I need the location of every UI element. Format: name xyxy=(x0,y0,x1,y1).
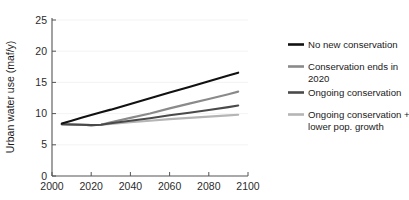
x-tick-label-2040: 2040 xyxy=(119,180,143,192)
x-tick-label-2080: 2080 xyxy=(197,180,221,192)
chart-figure: 0 5 10 15 20 25 2000 2020 2040 2060 2080… xyxy=(0,0,409,200)
y-tick-label-15: 15 xyxy=(35,76,47,88)
chart-legend: No new conservationConservation ends in2… xyxy=(288,39,409,132)
line-chart: 0 5 10 15 20 25 2000 2020 2040 2060 2080… xyxy=(0,0,409,200)
y-tick-label-25: 25 xyxy=(35,14,47,26)
legend-label-3-line2: lower pop. growth xyxy=(308,121,384,132)
y-tick-label-20: 20 xyxy=(35,45,47,57)
x-tick-label-2060: 2060 xyxy=(158,180,182,192)
legend-label-2: Ongoing conservation xyxy=(308,87,401,98)
legend-label-1: Conservation ends in xyxy=(308,61,398,72)
y-tick-label-5: 5 xyxy=(41,138,47,150)
x-tick-label-2020: 2020 xyxy=(80,180,104,192)
x-tick-label-2100: 2100 xyxy=(236,180,260,192)
legend-label-0: No new conservation xyxy=(308,39,398,50)
y-axis-title: Urban water use (maf/y) xyxy=(4,41,16,154)
y-tick-label-10: 10 xyxy=(35,107,47,119)
legend-label-3: Ongoing conservation + xyxy=(308,109,409,120)
x-tick-label-2000: 2000 xyxy=(40,180,64,192)
legend-label-1-line2: 2020 xyxy=(308,73,329,84)
